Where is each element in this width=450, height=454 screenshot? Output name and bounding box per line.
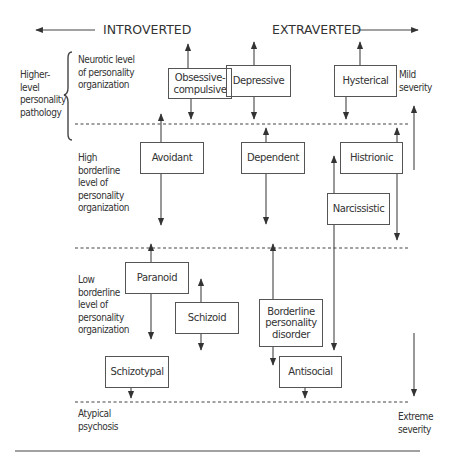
introverted-label: INTROVERTED <box>103 22 191 37</box>
atypical-psychosis-label: Atypical psychosis <box>78 408 128 433</box>
neurotic-level-label: Neurotic level of personality organizati… <box>78 54 140 92</box>
extreme-severity-label: Extreme severity <box>398 411 448 436</box>
box-schizoid: Schizoid <box>175 302 239 334</box>
box-hysterical: Hysterical <box>334 65 397 97</box>
box-paranoid: Paranoid <box>125 262 189 294</box>
box-avoidant: Avoidant <box>140 142 204 174</box>
box-narcissistic: Narcissistic <box>327 193 390 225</box>
higher-level-label: Higher-level personality pathology <box>20 69 68 119</box>
box-borderline-personality-disorder: Borderline personality disorder <box>259 299 323 347</box>
box-schizotypal: Schizotypal <box>105 356 169 388</box>
box-dependent: Dependent <box>241 142 305 174</box>
box-antisocial: Antisocial <box>279 356 342 388</box>
mild-severity-label: Mild severity <box>399 69 445 94</box>
high-borderline-label: High borderline level of personality org… <box>78 152 134 215</box>
box-depressive: Depressive <box>226 65 291 97</box>
box-obsessive-compulsive: Obsessive-compulsive <box>168 68 232 99</box>
extraverted-label: EXTRAVERTED <box>272 22 361 37</box>
box-histrionic: Histrionic <box>340 142 403 174</box>
